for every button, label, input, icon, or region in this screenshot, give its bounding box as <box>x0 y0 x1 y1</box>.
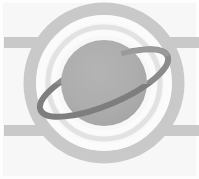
graphic-canvas: Ringed Planet Emblem saturn-like planet … <box>0 0 199 179</box>
ringed-planet-emblem <box>0 0 199 179</box>
